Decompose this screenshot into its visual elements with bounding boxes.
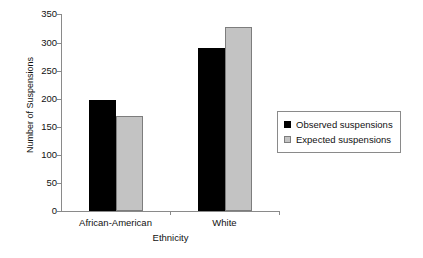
y-tick-mark <box>57 14 61 15</box>
y-tick-label: 150 <box>27 121 57 132</box>
x-tick-mark <box>279 211 280 215</box>
y-tick-mark <box>57 183 61 184</box>
legend-label-expected: Expected suspensions <box>296 134 391 145</box>
bar-observed-african-american <box>89 100 116 211</box>
y-tick-label: 200 <box>27 93 57 104</box>
y-tick-label: 100 <box>27 149 57 160</box>
bar-observed-white <box>198 48 225 211</box>
y-tick-mark <box>57 43 61 44</box>
x-category-label-african-american: African-American <box>61 217 170 228</box>
chart-legend: Observed suspensions Expected suspension… <box>277 111 401 153</box>
y-tick-label: 50 <box>27 177 57 188</box>
bar-chart: Number of Suspensions 0 50 100 150 200 2… <box>0 0 423 258</box>
y-tick-label: 250 <box>27 65 57 76</box>
y-tick-mark <box>57 155 61 156</box>
legend-item-observed: Observed suspensions <box>284 117 393 132</box>
y-tick-mark <box>57 211 61 212</box>
bar-expected-african-american <box>116 116 143 211</box>
y-tick-label: 300 <box>27 37 57 48</box>
expected-swatch-icon <box>284 136 291 143</box>
x-axis-title: Ethnicity <box>61 232 280 243</box>
observed-swatch-icon <box>284 121 291 128</box>
x-category-label-white: White <box>170 217 279 228</box>
y-axis-line <box>61 14 62 212</box>
y-tick-label: 350 <box>27 8 57 19</box>
plot-area: 0 50 100 150 200 250 300 350 <box>61 14 280 211</box>
bar-expected-white <box>225 27 252 211</box>
legend-label-observed: Observed suspensions <box>296 119 393 130</box>
x-tick-mark <box>170 211 171 215</box>
y-tick-mark <box>57 127 61 128</box>
y-tick-label: 0 <box>27 205 57 216</box>
legend-item-expected: Expected suspensions <box>284 132 393 147</box>
y-tick-mark <box>57 71 61 72</box>
y-tick-mark <box>57 99 61 100</box>
